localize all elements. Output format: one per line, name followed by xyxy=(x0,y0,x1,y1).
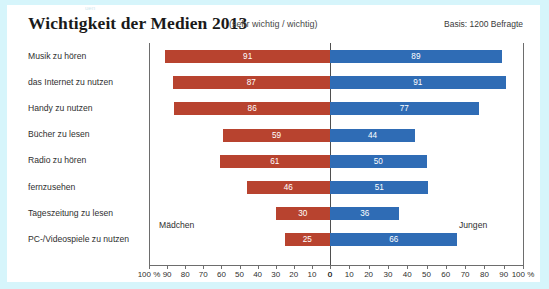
bar-value-label: 61 xyxy=(220,155,330,168)
bar-value-label: 36 xyxy=(330,207,399,220)
axis-tick xyxy=(312,265,313,269)
axis-tick-label: 70 xyxy=(199,270,208,279)
bar-right: 51 xyxy=(330,181,428,194)
bar-value-label: 91 xyxy=(165,50,330,63)
series-note-left: Mädchen xyxy=(159,220,194,230)
axis-tick-label: 70 xyxy=(461,270,470,279)
bar-value-label: 89 xyxy=(330,50,502,63)
bar-left: 91 xyxy=(165,50,330,63)
chart-header: Wichtigkeit der Medien 2013 (sehr wichti… xyxy=(7,13,540,39)
axis-tick xyxy=(240,265,241,269)
axis-tick-label: 80 xyxy=(480,270,489,279)
bar-value-label: 86 xyxy=(174,102,330,115)
bar-value-label: 25 xyxy=(285,233,330,246)
bar-right: 44 xyxy=(330,129,415,142)
axis-tick-label: 10 xyxy=(307,270,316,279)
axis-tick-label: 10 xyxy=(345,270,354,279)
bar-value-label: 44 xyxy=(330,129,415,142)
bar-value-label: 46 xyxy=(247,181,330,194)
axis-tick xyxy=(221,265,222,269)
axis-tick xyxy=(388,265,389,269)
axis-tick-label: 30 xyxy=(383,270,392,279)
bar-left: 61 xyxy=(220,155,330,168)
axis-tick xyxy=(523,265,524,269)
axis-tick xyxy=(369,265,370,269)
page-title: Wichtigkeit der Medien 2013 xyxy=(28,13,247,34)
category-label: Handy zu nutzen xyxy=(28,102,93,114)
axis-baseline xyxy=(149,265,524,266)
bar-right: 50 xyxy=(330,155,427,168)
axis-tick xyxy=(330,265,331,269)
bar-value-label: 87 xyxy=(173,76,330,89)
bar-right: 91 xyxy=(330,76,506,89)
chart-subtitle: (sehr wichtig / wichtig) xyxy=(229,19,318,29)
bar-right: 89 xyxy=(330,50,502,63)
axis-tick xyxy=(149,265,150,269)
bar-value-label: 50 xyxy=(330,155,427,168)
axis-tick xyxy=(294,265,295,269)
category-label: Bücher zu lesen xyxy=(28,128,90,140)
axis-tick xyxy=(427,265,428,269)
category-label: Musik zu hören xyxy=(28,50,86,62)
bar-left: 25 xyxy=(285,233,330,246)
category-label: PC-/Videospiele zu nutzen xyxy=(28,233,129,245)
axis-tick-label: 100 % xyxy=(512,270,535,279)
bar-value-label: 30 xyxy=(276,207,330,220)
axis-tick-label: 30 xyxy=(271,270,280,279)
axis-tick-label: 80 xyxy=(181,270,190,279)
bar-value-label: 66 xyxy=(330,233,457,246)
axis-tick xyxy=(407,265,408,269)
axis-tick-label: 90 xyxy=(163,270,172,279)
axis-tick xyxy=(446,265,447,269)
axis-tick-label: 40 xyxy=(253,270,262,279)
axis-tick xyxy=(465,265,466,269)
chart-figure: uen Wichtigkeit der Medien 2013 (sehr wi… xyxy=(7,5,540,282)
axis-tick-label: 0 xyxy=(328,270,332,279)
category-label: fernzusehen xyxy=(28,181,75,193)
category-label: Tageszeitung zu lesen xyxy=(28,207,113,219)
axis-tick-label: 20 xyxy=(289,270,298,279)
axis-tick xyxy=(258,265,259,269)
bar-left: 87 xyxy=(173,76,330,89)
bar-left: 86 xyxy=(174,102,330,115)
axis-tick-label: 50 xyxy=(422,270,431,279)
bar-value-label: 91 xyxy=(330,76,506,89)
axis-tick-label: 90 xyxy=(499,270,508,279)
category-label: Radio zu hören xyxy=(28,154,86,166)
bar-right: 66 xyxy=(330,233,457,246)
plot-area: 91898791867759446150465130362566 Musik z… xyxy=(7,43,540,275)
bar-value-label: 59 xyxy=(223,129,330,142)
bar-value-label: 77 xyxy=(330,102,479,115)
axis-tick-label: 50 xyxy=(235,270,244,279)
axis-tick xyxy=(203,265,204,269)
bar-left: 30 xyxy=(276,207,330,220)
axis-tick-label: 40 xyxy=(403,270,412,279)
axis-left-boundary xyxy=(149,43,150,265)
axis-tick xyxy=(484,265,485,269)
series-note-right: Jungen xyxy=(459,220,487,230)
bar-left: 46 xyxy=(247,181,330,194)
chart-basis-note: Basis: 1200 Befragte xyxy=(444,19,523,29)
bar-value-label: 51 xyxy=(330,181,428,194)
bar-right: 77 xyxy=(330,102,479,115)
top-scan-artifact: uen xyxy=(85,5,155,12)
axis-tick-label: 60 xyxy=(217,270,226,279)
bar-left: 59 xyxy=(223,129,330,142)
axis-tick-label: 60 xyxy=(441,270,450,279)
axis-tick xyxy=(185,265,186,269)
category-label: das Internet zu nutzen xyxy=(28,76,113,88)
axis-tick xyxy=(349,265,350,269)
axis-tick-label: 100 % xyxy=(138,270,161,279)
axis-tick xyxy=(504,265,505,269)
bar-right: 36 xyxy=(330,207,399,220)
axis-right-boundary xyxy=(523,43,524,265)
axis-tick xyxy=(276,265,277,269)
axis-tick-label: 20 xyxy=(364,270,373,279)
axis-tick xyxy=(167,265,168,269)
